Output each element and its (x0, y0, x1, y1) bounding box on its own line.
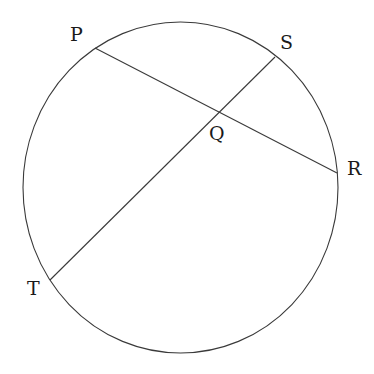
chord-pr (95, 48, 337, 173)
circle-chords-diagram: P S Q R T (0, 0, 374, 374)
label-r: R (347, 157, 362, 179)
chord-st (50, 57, 275, 280)
label-s: S (280, 31, 293, 53)
label-t: T (27, 277, 40, 299)
circle (23, 22, 338, 353)
label-q: Q (209, 122, 225, 144)
label-p: P (70, 23, 83, 45)
